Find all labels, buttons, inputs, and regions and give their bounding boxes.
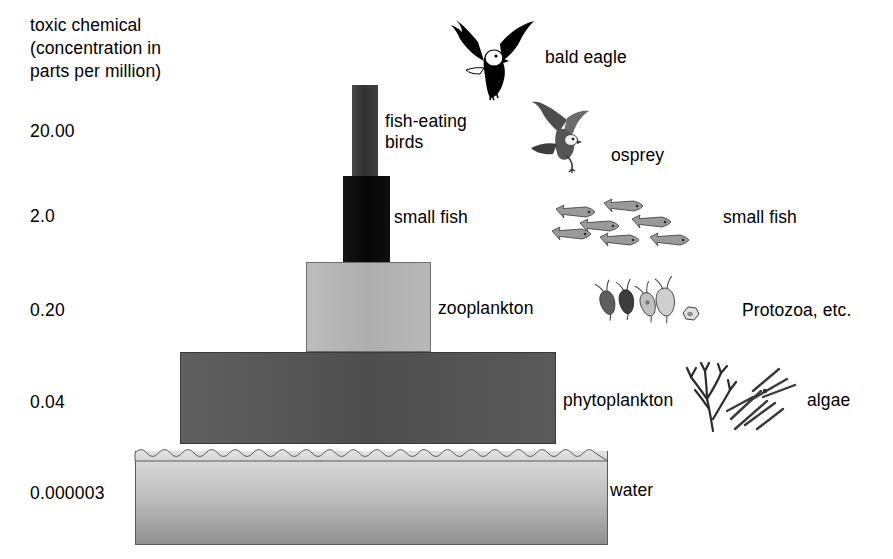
osprey-icon [527,100,605,172]
biomagnification-pyramid-diagram: toxic chemical (concentration in parts p… [0,0,893,559]
bar-small-fish [343,176,390,262]
bald-eagle-icon [444,14,554,100]
bar-label-water: water [610,480,653,501]
bar-fish-eating-birds [352,85,378,180]
axis-header: toxic chemical (concentration in parts p… [30,14,230,83]
axis-value-2: 0.20 [30,300,65,321]
illustration-label-osprey: osprey [611,145,664,166]
bar-phytoplankton [180,352,556,444]
axis-value-0: 20.00 [30,121,75,142]
protozoa-icon [595,283,715,331]
bar-label-phytoplankton: phytoplankton [563,390,673,411]
algae-icon [683,357,811,433]
illustration-label-bald-eagle: bald eagle [545,47,627,68]
illustration-label-protozoa: Protozoa, etc. [742,300,851,321]
small-fish-school-icon [552,196,712,250]
axis-value-1: 2.0 [30,206,55,227]
illustration-label-small-fish: small fish [723,207,797,228]
bar-label-small-fish: small fish [394,207,468,228]
illustration-label-algae: algae [807,390,850,411]
axis-value-4: 0.000003 [30,483,105,504]
bar-zooplankton [306,262,431,352]
bar-water [135,451,608,545]
bar-label-zooplankton: zooplankton [438,298,533,319]
axis-value-3: 0.04 [30,392,65,413]
bar-label-fish-eating-birds: fish-eating birds [385,111,467,153]
